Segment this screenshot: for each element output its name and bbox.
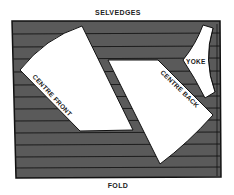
yoke-label: YOKE xyxy=(186,58,206,65)
fabric-layout-diagram: CENTRE FRONT CENTRE BACK YOKE xyxy=(0,0,234,195)
fold-label: FOLD xyxy=(108,182,129,189)
